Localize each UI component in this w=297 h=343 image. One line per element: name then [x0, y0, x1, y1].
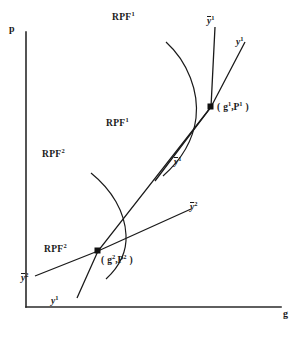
rpf1-mid-text: RPF	[106, 118, 125, 128]
rpf2-mid-label: RPF2	[42, 150, 65, 160]
y1-bottom-superscript: 1	[55, 294, 58, 301]
rpf2-low-superscript: 2	[63, 242, 67, 249]
ybar2-right-text: y	[190, 203, 194, 213]
rpf2-mid-superscript: 2	[61, 147, 65, 154]
eq2-open-paren: (	[101, 255, 104, 265]
axes-group	[26, 32, 281, 307]
ybar1-lower-label: y1	[174, 158, 181, 168]
rpf2-low-label: RPF2	[44, 245, 67, 255]
rpf2-low-text: RPF	[44, 244, 63, 254]
economics-figure: p g RPF1 RPF1 RPF2 RPF2 y1 y1 y1 y2 y2 y…	[0, 0, 297, 343]
ybar2-line	[35, 209, 191, 276]
ybar1-top-text: y	[207, 17, 211, 27]
ybar1-lower-superscript: 1	[178, 155, 181, 162]
ybar2-left-superscript: 2	[25, 271, 28, 278]
rpf1-mid-superscript: 1	[125, 116, 129, 123]
equilibrium-1-label: (g1,P1)	[217, 103, 249, 113]
equilibrium-point-1-marker	[208, 104, 214, 110]
x-axis-label: g	[283, 309, 288, 319]
ybar2-left-label: y2	[21, 274, 28, 284]
rpf1-top-superscript: 1	[131, 10, 135, 17]
eq1-open-paren: (	[217, 102, 220, 112]
ybar2-right-label: y2	[190, 203, 197, 213]
y-axis-label: p	[9, 24, 15, 34]
eq2-p-superscript: 2	[123, 253, 126, 260]
eq1-close-paren: )	[246, 102, 249, 112]
y1-bottom-label: y1	[51, 297, 58, 307]
ybar1-top-label: y1	[207, 17, 214, 27]
eq1-p-superscript: 1	[239, 100, 242, 107]
eq2-close-paren: )	[130, 255, 133, 265]
ybar1-line	[155, 27, 215, 181]
y1-top-label: y1	[236, 38, 243, 48]
rpf1-top-label: RPF1	[112, 13, 135, 23]
rpf1-top-text: RPF	[112, 12, 131, 22]
equilibrium-point-2-marker	[95, 248, 101, 254]
rpf2-mid-text: RPF	[42, 149, 61, 159]
y1-top-superscript: 1	[240, 35, 243, 42]
ybar1-top-superscript: 1	[211, 14, 214, 21]
plot-canvas	[0, 0, 297, 343]
rpf1-mid-label: RPF1	[106, 119, 129, 129]
ybar2-right-superscript: 2	[194, 200, 197, 207]
ybar2-left-text: y	[21, 274, 25, 284]
equilibrium-2-label: (g2,P2)	[101, 256, 133, 266]
ybar1-lower-text: y	[174, 158, 178, 168]
